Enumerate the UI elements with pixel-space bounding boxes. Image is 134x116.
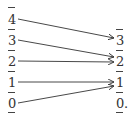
arrow-3-to-2 bbox=[18, 40, 114, 57]
trailing-period: . bbox=[124, 96, 128, 111]
left-label-0: 0 bbox=[8, 96, 16, 111]
right-label-2: 2 bbox=[116, 54, 124, 69]
left-column: 4 3 2 1 0 bbox=[8, 8, 16, 113]
right-column: 3 2 1 0 . bbox=[116, 30, 128, 113]
arrow-0-to-1 bbox=[18, 86, 114, 103]
arrows bbox=[18, 19, 114, 103]
left-label-3: 3 bbox=[8, 33, 16, 48]
left-label-4: 4 bbox=[8, 12, 16, 27]
right-label-3: 3 bbox=[116, 33, 124, 48]
arrow-2-to-2 bbox=[18, 61, 114, 62]
right-label-1: 1 bbox=[116, 75, 124, 90]
left-label-1: 1 bbox=[8, 75, 16, 90]
left-label-2: 2 bbox=[8, 54, 16, 69]
arrow-4-to-3 bbox=[18, 19, 114, 38]
mapping-diagram: 4 3 2 1 0 3 2 1 0 . bbox=[0, 0, 134, 116]
